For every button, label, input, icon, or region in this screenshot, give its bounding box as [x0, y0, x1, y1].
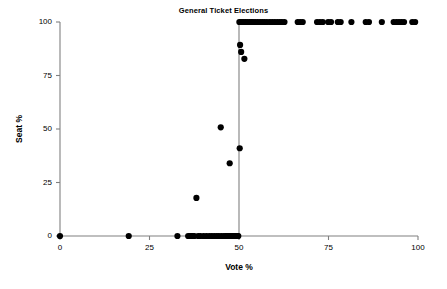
data-point	[126, 233, 132, 239]
chart-figure: General Ticket Elections 0255075100 0255…	[0, 0, 447, 289]
x-tick-label: 100	[411, 243, 425, 252]
y-axis-title: Seat %	[14, 115, 24, 143]
x-axis-title: Vote %	[225, 262, 253, 272]
data-point	[57, 233, 63, 239]
scatter-plot: 0255075100 0255075100 Seat % Vote %	[0, 0, 447, 289]
data-point	[348, 19, 354, 25]
data-point	[235, 233, 241, 239]
x-tick-label: 50	[235, 243, 244, 252]
data-point	[338, 19, 344, 25]
data-point	[320, 19, 326, 25]
x-tick-label: 0	[58, 243, 63, 252]
y-tick-label: 50	[43, 124, 52, 133]
data-point	[193, 195, 199, 201]
data-point	[174, 233, 180, 239]
data-point	[300, 19, 306, 25]
data-point	[227, 160, 233, 166]
x-tick-label: 75	[324, 243, 333, 252]
x-axis-ticks: 0255075100	[58, 236, 425, 252]
data-point	[328, 19, 334, 25]
data-point	[412, 19, 418, 25]
y-axis-ticks: 0255075100	[39, 17, 60, 240]
data-point	[281, 19, 287, 25]
data-point	[379, 19, 385, 25]
data-point	[366, 19, 372, 25]
y-tick-label: 100	[39, 17, 53, 26]
y-tick-label: 25	[43, 178, 52, 187]
data-point	[401, 19, 407, 25]
data-point	[238, 49, 244, 55]
y-tick-label: 0	[48, 231, 53, 240]
data-point	[237, 42, 243, 48]
y-tick-label: 75	[43, 71, 52, 80]
data-point	[237, 145, 243, 151]
x-tick-label: 25	[145, 243, 154, 252]
data-points	[57, 19, 418, 239]
data-point	[241, 56, 247, 62]
data-point	[218, 124, 224, 130]
